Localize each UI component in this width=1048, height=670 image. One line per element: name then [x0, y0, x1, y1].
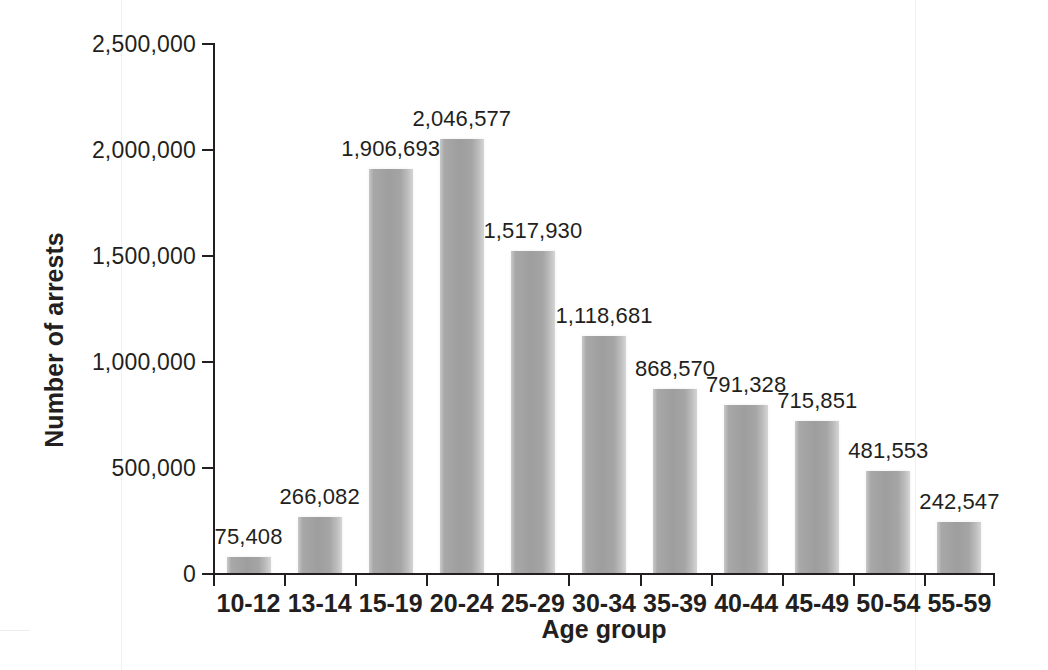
x-axis-title: Age group — [213, 615, 995, 644]
bar-group: 242,54755-59 — [924, 43, 995, 573]
bar-group: 2,046,57720-24 — [426, 43, 497, 573]
y-axis-tick-label: 500,000 — [111, 455, 196, 482]
bar-value-label: 868,570 — [635, 356, 715, 382]
x-axis-category-label: 50-54 — [856, 589, 920, 618]
x-axis-tick — [711, 573, 713, 586]
y-axis-tick-label: 2,500,000 — [92, 31, 196, 58]
bar[interactable] — [582, 336, 626, 573]
x-axis-end-cap — [993, 573, 995, 586]
y-axis-tick: 2,500,000 — [202, 43, 213, 45]
bar-value-label: 242,547 — [919, 489, 999, 515]
bar[interactable] — [511, 251, 555, 573]
bar-group: 791,32840-44 — [711, 43, 782, 573]
bar-value-label: 1,906,693 — [341, 136, 440, 162]
bar-value-label: 715,851 — [777, 388, 857, 414]
y-axis-tick: 2,000,000 — [202, 149, 213, 151]
bar-group: 715,85145-49 — [782, 43, 853, 573]
x-axis-tick — [568, 573, 570, 586]
x-axis-category-label: 40-44 — [714, 589, 778, 618]
x-axis-category-label: 20-24 — [430, 589, 494, 618]
x-axis-category-label: 45-49 — [785, 589, 849, 618]
plot-area: 0500,0001,000,0001,500,0002,000,0002,500… — [213, 43, 995, 573]
bar[interactable] — [795, 421, 839, 573]
bar-group: 75,40810-12 — [213, 43, 284, 573]
x-axis-category-label: 30-34 — [572, 589, 636, 618]
bar-group: 868,57035-39 — [640, 43, 711, 573]
x-axis-category-label: 55-59 — [927, 589, 991, 618]
bar-value-label: 2,046,577 — [412, 106, 511, 132]
bar[interactable] — [653, 389, 697, 573]
bar-value-label: 75,408 — [215, 524, 283, 550]
x-axis-tick — [782, 573, 784, 586]
bar[interactable] — [227, 557, 271, 573]
y-axis-tick-label: 1,000,000 — [92, 349, 196, 376]
bar-value-label: 1,118,681 — [555, 303, 652, 329]
y-axis-title: Number of arrests — [40, 200, 69, 480]
x-axis-tick — [213, 573, 215, 586]
x-axis-tick — [924, 573, 926, 586]
bar[interactable] — [440, 139, 484, 573]
bar-group: 481,55350-54 — [853, 43, 924, 573]
y-axis-tick: 0 — [202, 573, 213, 575]
y-axis-tick: 500,000 — [202, 467, 213, 469]
x-axis-tick — [355, 573, 357, 586]
x-axis-category-label: 15-19 — [359, 589, 423, 618]
bar[interactable] — [937, 522, 981, 573]
bar[interactable] — [866, 471, 910, 573]
bar[interactable] — [724, 405, 768, 573]
bar[interactable] — [369, 169, 413, 573]
bar-value-label: 481,553 — [848, 438, 928, 464]
bar-value-label: 266,082 — [279, 484, 359, 510]
y-axis-tick: 1,000,000 — [202, 361, 213, 363]
x-axis-tick — [640, 573, 642, 586]
x-axis-tick — [497, 573, 499, 586]
bar-chart-figure: Number of arrests 0500,0001,000,0001,500… — [0, 0, 1048, 670]
bar-value-label: 1,517,930 — [484, 218, 583, 244]
y-axis-tick: 1,500,000 — [202, 255, 213, 257]
x-axis-line — [213, 573, 995, 575]
x-axis-tick — [853, 573, 855, 586]
x-axis-tick — [426, 573, 428, 586]
bar-group: 1,118,68130-34 — [568, 43, 639, 573]
page-seam-left — [121, 0, 122, 670]
y-axis-tick-label: 2,000,000 — [92, 137, 196, 164]
bar[interactable] — [298, 517, 342, 573]
x-axis-category-label: 10-12 — [217, 589, 281, 618]
x-axis-category-label: 13-14 — [288, 589, 352, 618]
y-axis-tick-label: 1,500,000 — [92, 243, 196, 270]
x-axis-category-label: 25-29 — [501, 589, 565, 618]
bar-series: 75,40810-12266,08213-141,906,69315-192,0… — [213, 43, 995, 573]
bar-value-label: 791,328 — [706, 372, 786, 398]
x-axis-category-label: 35-39 — [643, 589, 707, 618]
bar-group: 266,08213-14 — [284, 43, 355, 573]
x-axis-tick — [284, 573, 286, 586]
y-axis-tick-label: 0 — [183, 561, 196, 588]
page-seam-bottom — [0, 630, 30, 631]
